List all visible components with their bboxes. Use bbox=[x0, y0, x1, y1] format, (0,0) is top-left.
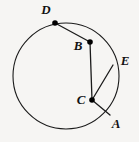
circle-geometry-figure: D B E C A bbox=[0, 0, 139, 142]
point-label-b: B bbox=[73, 38, 83, 53]
point-label-c: C bbox=[77, 92, 86, 107]
segment-b-c bbox=[90, 42, 92, 100]
segment-c-a bbox=[92, 100, 110, 115]
point-label-d: D bbox=[40, 2, 51, 17]
point-label-e: E bbox=[120, 53, 130, 68]
point-dot-c bbox=[89, 97, 95, 103]
diagram-canvas: D B E C A bbox=[0, 0, 139, 142]
main-circle bbox=[13, 23, 119, 129]
point-dot-d bbox=[52, 20, 58, 26]
point-dot-b bbox=[87, 39, 93, 45]
point-label-a: A bbox=[111, 116, 121, 131]
segment-c-e bbox=[92, 65, 113, 100]
